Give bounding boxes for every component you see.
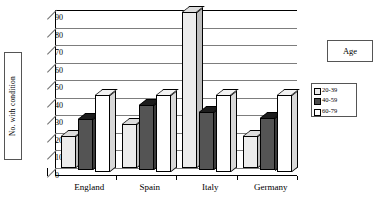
- legend-title: Age: [327, 40, 373, 62]
- gridline: [55, 45, 297, 46]
- bar-face: [277, 95, 292, 172]
- bar-england-60-79: [95, 95, 110, 172]
- bar-face: [122, 124, 137, 168]
- bar-side: [231, 90, 237, 172]
- x-axis-label-germany: Germany: [254, 182, 288, 192]
- x-axis-tick: [297, 176, 298, 180]
- legend-swatch-icon: [314, 88, 321, 95]
- bar-face: [95, 95, 110, 172]
- gridline: [55, 80, 297, 81]
- legend-item: 40-59: [314, 96, 354, 106]
- bar-england-40-59: [78, 119, 93, 170]
- legend-item-label: 60-79: [322, 107, 337, 114]
- bar-face: [78, 119, 93, 170]
- bar-side: [110, 90, 116, 172]
- gridline: [55, 28, 297, 29]
- bar-spain-60-79: [156, 95, 171, 172]
- legend-item: 60-79: [314, 107, 354, 117]
- legend-swatch-icon: [314, 109, 321, 116]
- bar-germany-40-59: [260, 118, 275, 171]
- bar-italy-60-79: [216, 95, 231, 172]
- bar-face: [216, 95, 231, 172]
- bar-side: [292, 90, 298, 172]
- x-axis-tick: [116, 176, 117, 180]
- bar-spain-20-39: [122, 124, 137, 168]
- bar-spain-40-59: [139, 105, 154, 170]
- bar-germany-60-79: [277, 95, 292, 172]
- y-axis-title: No. with condition: [5, 53, 21, 159]
- bar-face: [260, 118, 275, 171]
- legend: 20-3940-5960-79: [311, 83, 357, 117]
- bar-germany-20-39: [243, 136, 258, 168]
- plot-area: 0102030405060708090: [47, 10, 297, 176]
- x-axis-label-england: England: [74, 182, 104, 192]
- x-axis-label-italy: Italy: [202, 182, 219, 192]
- bar-chart: No. with condition 0102030405060708090 E…: [0, 0, 378, 212]
- gridline: [55, 63, 297, 64]
- x-axis-label-spain: Spain: [139, 182, 160, 192]
- x-axis-tick: [176, 176, 177, 180]
- bar-face: [199, 112, 214, 170]
- bar-face: [156, 95, 171, 172]
- bar-face: [243, 136, 258, 168]
- bar-italy-40-59: [199, 112, 214, 170]
- bar-england-20-39: [61, 136, 76, 168]
- legend-item-label: 20-39: [322, 86, 337, 93]
- y-axis-title-box: No. with condition: [4, 52, 22, 160]
- bar-face: [182, 12, 197, 168]
- legend-item: 20-39: [314, 86, 354, 96]
- gridline: [55, 10, 297, 11]
- bar-italy-20-39: [182, 12, 197, 168]
- bar-face: [61, 136, 76, 168]
- x-axis-tick: [237, 176, 238, 180]
- bar-side: [171, 90, 177, 172]
- legend-item-label: 40-59: [322, 96, 337, 103]
- legend-swatch-icon: [314, 98, 321, 105]
- bar-face: [139, 105, 154, 170]
